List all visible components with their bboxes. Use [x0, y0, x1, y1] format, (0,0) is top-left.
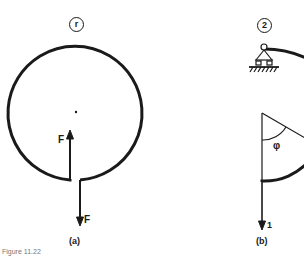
load-arrow-down: [259, 182, 266, 230]
load-label: 1: [267, 220, 272, 230]
force-label-down: F: [84, 214, 90, 225]
panel-b-marker: 2: [257, 18, 272, 33]
ring-center-dot: [75, 111, 77, 113]
angle-label: φ: [273, 140, 280, 151]
figure-canvas: [0, 0, 304, 259]
force-arrow-down: [77, 180, 84, 226]
panel-a-ring: [8, 46, 142, 180]
panel-a-label: (a): [69, 236, 80, 246]
panel-a-marker: r: [69, 17, 84, 32]
figure-caption: Figure 11.22: [2, 248, 41, 255]
force-arrow-up: [67, 130, 74, 180]
panel-b-label: (b): [256, 236, 268, 246]
force-label-up: F: [58, 134, 64, 145]
